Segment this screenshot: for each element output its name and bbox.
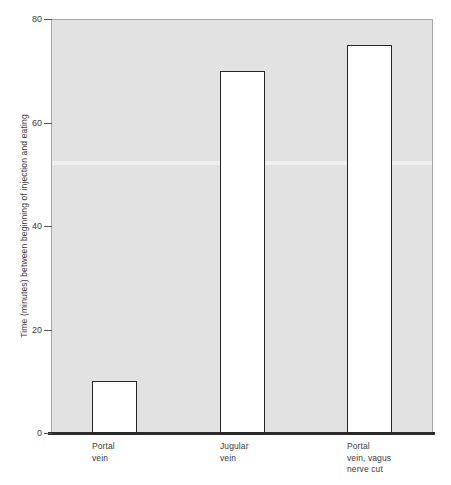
x-axis-category-label: Portal vein <box>92 441 115 464</box>
bar <box>347 45 392 433</box>
y-axis-tick <box>44 226 52 227</box>
bar-chart: Time (minutes) between beginning of inje… <box>0 0 451 485</box>
x-axis-category-label: Portal vein, vagus nerve cut <box>347 441 391 476</box>
y-axis-tick <box>44 123 52 124</box>
y-axis-tick-label: 20 <box>2 325 42 335</box>
bar <box>92 381 137 433</box>
y-axis-tick-label: 80 <box>2 14 42 24</box>
y-axis-tick <box>44 433 52 434</box>
y-axis-tick-label: 0 <box>2 428 42 438</box>
y-axis-tick-label: 60 <box>2 118 42 128</box>
x-axis-category-label: Jugular vein <box>220 441 249 464</box>
y-axis-tick <box>44 330 52 331</box>
bar <box>220 71 265 433</box>
y-axis-tick-label: 40 <box>2 221 42 231</box>
y-axis-tick <box>44 19 52 20</box>
